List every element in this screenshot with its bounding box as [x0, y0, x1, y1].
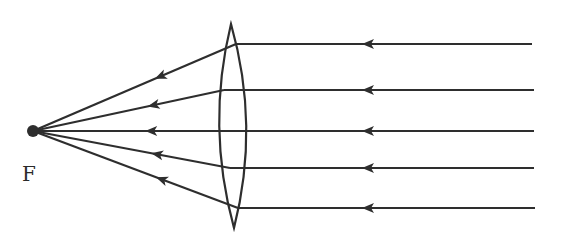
convex-lens — [219, 24, 246, 228]
refracted-ray — [33, 44, 236, 131]
focus-label: F — [22, 162, 36, 186]
light-rays — [33, 39, 535, 213]
lens-diagram-svg — [0, 0, 564, 240]
converging-arrow-icon — [154, 173, 169, 187]
lens-diagram: F — [0, 0, 564, 240]
refracted-ray — [33, 131, 230, 168]
converging-arrow-icon — [153, 69, 168, 83]
focus-point — [27, 125, 39, 137]
refracted-ray — [33, 131, 238, 208]
refracted-ray — [33, 90, 224, 131]
